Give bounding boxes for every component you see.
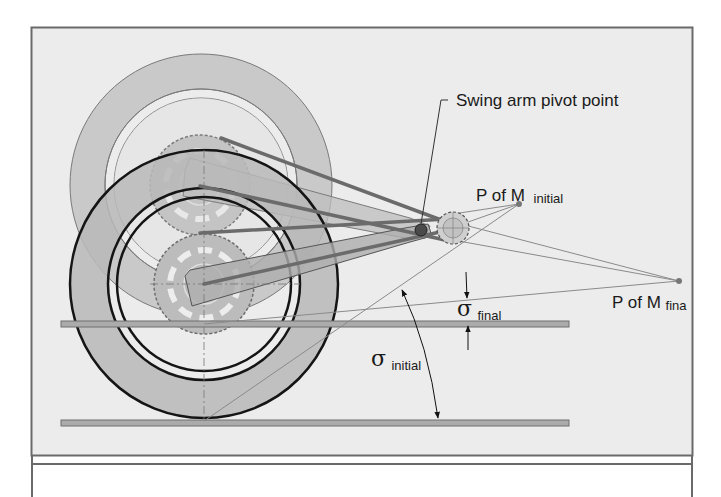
swingarm-pivot-point [415, 224, 427, 236]
pom-final-point [676, 278, 682, 284]
sigma-initial-sub: initial [391, 358, 421, 373]
pom-final-label-main: P of M [612, 293, 661, 312]
sigma-final-sub: final [477, 308, 501, 323]
pivot-label: Swing arm pivot point [456, 91, 619, 110]
sigma-final-symbol: σ [457, 296, 472, 321]
diagram-canvas: Swing arm pivot point P of M initial P o… [0, 0, 721, 497]
sigma-initial-symbol: σ [371, 346, 386, 371]
front-sprocket [437, 212, 469, 244]
pom-initial-label-sub: initial [534, 191, 564, 206]
pom-initial-label-main: P of M [476, 186, 525, 205]
ground-line-lower [61, 420, 569, 426]
pom-final-label-sub: fina [666, 298, 688, 313]
